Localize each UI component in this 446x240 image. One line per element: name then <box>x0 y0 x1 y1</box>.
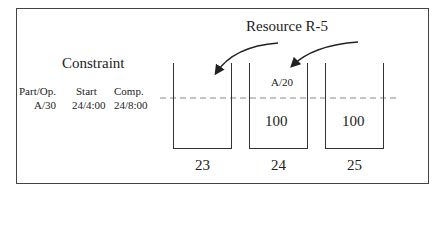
bucket-25-capacity: 100 <box>342 113 365 130</box>
bucket-23-day: 23 <box>173 157 232 174</box>
bucket-25 <box>325 63 384 149</box>
bucket-24-day: 24 <box>249 157 308 174</box>
bucket-23 <box>173 63 232 149</box>
bucket-25-day: 25 <box>325 157 384 174</box>
bucket-24-op-label: A/20 <box>271 76 293 88</box>
bucket-24-capacity: 100 <box>265 113 288 130</box>
